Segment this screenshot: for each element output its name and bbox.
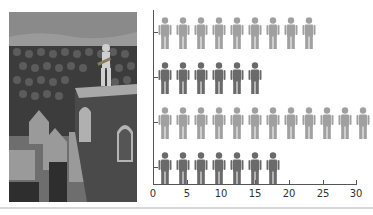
x-tick-label: 25 [317,188,330,199]
person-icon [318,107,336,139]
person-icon [228,152,246,184]
person-icon [210,62,228,94]
x-tick [356,180,357,184]
pictograph-row-4 [156,152,282,184]
bottom-divider [0,207,373,209]
person-icon [156,107,174,139]
person-icon [246,152,264,184]
x-tick-label: 20 [283,188,296,199]
person-icon [210,107,228,139]
person-icon [264,107,282,139]
person-icon [228,107,246,139]
person-icon [228,62,246,94]
x-tick [323,180,324,184]
person-icon [210,152,228,184]
person-icon [282,107,300,139]
person-icon [156,152,174,184]
x-axis [153,184,357,185]
pictograph-row-2 [156,62,264,94]
pictograph-row-1 [156,17,318,49]
illustration-image [9,12,137,202]
person-icon [228,17,246,49]
person-icon [156,62,174,94]
x-tick [153,180,154,184]
person-icon [210,17,228,49]
person-icon [192,152,210,184]
x-tick-label: 15 [249,188,262,199]
person-icon [336,107,354,139]
y-axis [153,10,154,184]
pictograph-chart: 0 5 10 15 20 25 30 [150,0,373,205]
person-icon [192,17,210,49]
person-icon [264,152,282,184]
x-tick [289,180,290,184]
person-icon [174,107,192,139]
x-tick-label: 5 [184,188,190,199]
person-icon [174,62,192,94]
person-icon [246,107,264,139]
person-icon [192,62,210,94]
person-icon [156,17,174,49]
x-tick-label: 30 [350,188,363,199]
pictograph-row-3 [156,107,372,139]
person-icon [300,17,318,49]
person-icon [264,17,282,49]
person-icon [246,17,264,49]
x-tick-label: 10 [215,188,228,199]
person-icon [354,107,372,139]
person-icon [192,107,210,139]
person-icon [282,17,300,49]
person-icon [174,17,192,49]
x-tick-label: 0 [150,188,156,199]
person-icon [174,152,192,184]
person-icon [246,62,264,94]
person-icon [300,107,318,139]
